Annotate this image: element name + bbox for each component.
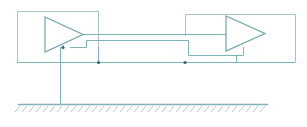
earth-ground-icon xyxy=(15,105,268,113)
signal-wire-return xyxy=(70,41,244,56)
right-amplifier-icon xyxy=(226,16,265,51)
junction-node-bus-right xyxy=(183,61,186,64)
junction-node-bus-left xyxy=(97,61,100,64)
circuit-diagram xyxy=(0,0,307,127)
junction-node-left-amp xyxy=(61,46,64,49)
